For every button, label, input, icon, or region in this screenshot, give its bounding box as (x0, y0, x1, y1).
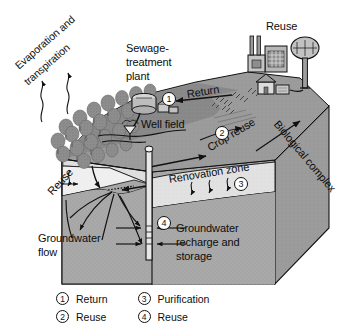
callout-1[interactable]: 1 (162, 92, 176, 106)
figure-canvas: Evaporation and transpiration Sewage- tr… (0, 0, 348, 333)
legend: 1 Return 2 Reuse 3 Purification 4 Reuse (56, 292, 306, 323)
legend-column-left: 1 Return 2 Reuse (56, 292, 108, 323)
label-sewage-line1: Sewage- (126, 42, 169, 54)
callout-2[interactable]: 2 (215, 126, 229, 140)
legend-column-right: 3 Purification 4 Reuse (138, 292, 210, 323)
callout-3[interactable]: 3 (234, 177, 248, 191)
label-recharge-line3: storage (176, 250, 212, 262)
label-recharge-line1: Groundwater (176, 222, 239, 234)
legend-item-1[interactable]: 1 Return (56, 292, 108, 305)
recharge-well (145, 146, 153, 260)
label-groundwater-flow-line1: Groundwater (38, 232, 101, 244)
legend-item-4[interactable]: 4 Reuse (138, 310, 210, 323)
label-well-field: Well field (141, 118, 184, 130)
legend-item-2[interactable]: 2 Reuse (56, 310, 108, 323)
industrial-complex (248, 36, 319, 94)
label-reuse-top: Reuse (266, 20, 297, 32)
label-groundwater-flow-line2: flow (38, 246, 57, 258)
label-sewage-line3: plant (126, 70, 149, 82)
legend-label-3: Purification (158, 293, 210, 305)
evaporation-arrows (41, 73, 69, 122)
legend-label-2: Reuse (76, 311, 106, 323)
legend-circle-2: 2 (56, 310, 69, 323)
legend-item-3[interactable]: 3 Purification (138, 292, 210, 305)
callout-4[interactable]: 4 (157, 216, 171, 230)
label-recharge-line2: recharge and (176, 236, 240, 248)
legend-circle-3: 3 (138, 292, 151, 305)
legend-label-4: Reuse (158, 311, 188, 323)
legend-circle-1: 1 (56, 292, 69, 305)
legend-label-1: Return (76, 293, 108, 305)
label-sewage-line2: treatment (126, 56, 172, 68)
legend-circle-4: 4 (138, 310, 151, 323)
